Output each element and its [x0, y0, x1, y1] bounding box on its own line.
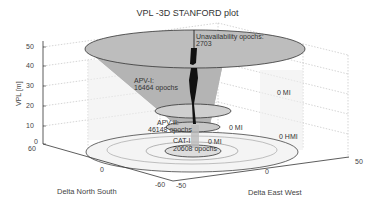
- x-tick-60: 60: [28, 145, 36, 152]
- z-tick-20: 20: [26, 102, 34, 109]
- apv2-count: 46148 opochs: [148, 126, 192, 133]
- z-axis-label: VPL [m]: [15, 81, 22, 106]
- plot-area: [0, 0, 375, 206]
- x-tick-neg60: -60: [155, 181, 165, 188]
- z-tick-50: 50: [26, 43, 34, 50]
- hmi-annotation: 0 HMI: [279, 133, 298, 140]
- x-tick-0: 0: [100, 166, 104, 173]
- y-tick-0: 0: [265, 168, 269, 175]
- z-tick-10: 10: [26, 122, 34, 129]
- z-tick-30: 30: [26, 82, 34, 89]
- cat1-count: 20608 opochs: [173, 145, 217, 152]
- z-tick-40: 40: [26, 62, 34, 69]
- y-axis-label: Delta East West: [248, 188, 302, 197]
- y-tick-50: 50: [355, 158, 363, 165]
- cat1-label: CAT-I: [173, 137, 190, 144]
- y-tick-neg50: -50: [176, 182, 186, 189]
- mi-annotation-3: 0 MI: [208, 138, 222, 145]
- x-axis-label: Delta North South: [57, 187, 117, 196]
- unavailability-count: 2703: [196, 40, 212, 47]
- apv1-label: APV-I:: [134, 77, 154, 84]
- mi-annotation-1: 0 MI: [277, 89, 291, 96]
- apv1-count: 16464 opochs: [134, 84, 178, 91]
- z-tick-0: 0: [34, 138, 38, 145]
- mi-annotation-2: 0 MI: [229, 124, 243, 131]
- apv2-label: APV-II:: [157, 119, 179, 126]
- unavailability-label: Unavailability opochs:: [196, 33, 264, 40]
